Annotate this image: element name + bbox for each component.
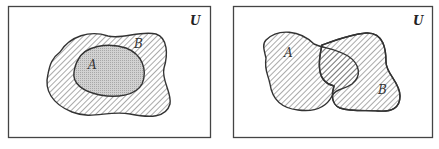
set-a-label-left: A bbox=[87, 58, 97, 72]
venn-subset-diagram: U A B bbox=[9, 7, 211, 138]
set-b-label-right: B bbox=[377, 83, 387, 97]
set-a-label-right: A bbox=[283, 46, 293, 60]
universe-label-left: U bbox=[190, 14, 202, 28]
set-b-label-left: B bbox=[133, 37, 143, 51]
universe-label-right: U bbox=[413, 14, 425, 28]
set-a-region-left bbox=[74, 45, 145, 96]
venn-diagrams-figure: U A B U A B bbox=[0, 0, 439, 149]
venn-overlap-diagram: U A B bbox=[234, 7, 433, 138]
